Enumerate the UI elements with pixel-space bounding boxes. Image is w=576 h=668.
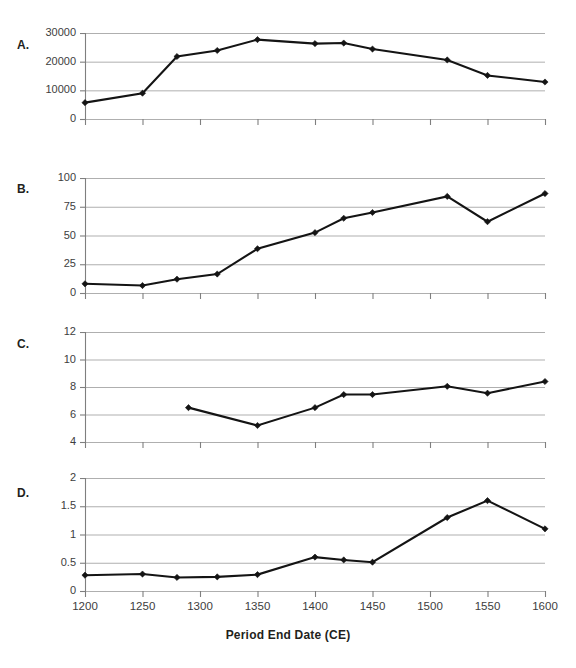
data-point-marker — [312, 554, 318, 560]
data-series-line — [85, 501, 545, 578]
data-point-marker — [484, 390, 490, 396]
x-axis-tick-label: 1450 — [343, 600, 403, 612]
x-axis-tick-label: 1250 — [113, 600, 173, 612]
y-axis-tick-label: 0 — [16, 112, 76, 124]
data-point-marker — [254, 572, 260, 578]
data-point-marker — [369, 391, 375, 397]
y-axis-tick-label: 2 — [16, 471, 76, 483]
y-axis-tick-label: 8 — [16, 380, 76, 392]
y-axis-tick-label: 75 — [16, 200, 76, 212]
data-point-marker — [369, 209, 375, 215]
x-axis-tick-label: 1350 — [228, 600, 288, 612]
data-point-marker — [341, 557, 347, 563]
data-point-marker — [185, 405, 191, 411]
data-point-marker — [369, 46, 375, 52]
y-axis-tick-label: 1 — [16, 528, 76, 540]
y-axis-tick-label: 0.5 — [16, 556, 76, 568]
y-axis-tick-label: 12 — [16, 325, 76, 337]
data-point-marker — [82, 281, 88, 287]
data-point-marker — [174, 276, 180, 282]
y-axis-tick-label: 30000 — [16, 26, 76, 38]
data-point-marker — [82, 572, 88, 578]
data-point-marker — [254, 422, 260, 428]
data-point-marker — [139, 282, 145, 288]
x-axis-tick-label: 1600 — [515, 600, 575, 612]
y-axis-tick-label: 25 — [16, 257, 76, 269]
panel-plot-a — [0, 33, 576, 133]
multi-panel-line-chart-figure: A.0100002000030000B.0255075100C.4681012D… — [0, 0, 576, 668]
data-point-marker — [341, 40, 347, 46]
y-axis-tick-label: 1.5 — [16, 499, 76, 511]
x-axis-tick-label: 1300 — [170, 600, 230, 612]
y-axis-tick-label: 6 — [16, 408, 76, 420]
x-axis-tick-label: 1500 — [400, 600, 460, 612]
y-axis-tick-label: 20000 — [16, 55, 76, 67]
panel-plot-b — [0, 178, 576, 307]
data-point-marker — [214, 47, 220, 53]
x-axis-tick-label: 1550 — [458, 600, 518, 612]
x-axis-title: Period End Date (CE) — [0, 628, 576, 642]
data-point-marker — [254, 36, 260, 42]
panel-plot-c — [0, 332, 576, 456]
y-axis-tick-label: 10000 — [16, 83, 76, 95]
data-point-marker — [312, 41, 318, 47]
data-point-marker — [341, 391, 347, 397]
data-point-marker — [484, 72, 490, 78]
panel-plot-d — [0, 478, 576, 605]
data-point-marker — [139, 571, 145, 577]
data-point-marker — [542, 79, 548, 85]
x-axis-tick-label: 1200 — [55, 600, 115, 612]
y-axis-tick-label: 0 — [16, 584, 76, 596]
y-axis-tick-label: 4 — [16, 435, 76, 447]
y-axis-tick-label: 0 — [16, 286, 76, 298]
y-axis-tick-label: 50 — [16, 229, 76, 241]
data-series-line — [85, 40, 545, 103]
x-axis-tick-label: 1400 — [285, 600, 345, 612]
data-point-marker — [312, 405, 318, 411]
data-point-marker — [214, 574, 220, 580]
data-point-marker — [444, 383, 450, 389]
data-series-line — [189, 382, 546, 426]
y-axis-tick-label: 10 — [16, 353, 76, 365]
data-point-marker — [82, 100, 88, 106]
data-point-marker — [174, 574, 180, 580]
data-point-marker — [542, 378, 548, 384]
y-axis-tick-label: 100 — [16, 171, 76, 183]
